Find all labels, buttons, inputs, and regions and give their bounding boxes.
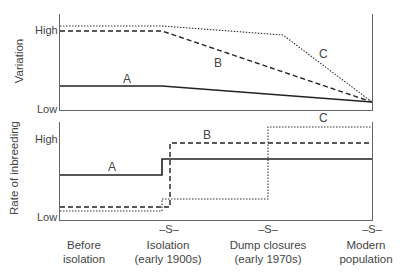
top-ylabel: Variation xyxy=(13,36,25,86)
top-ytick-high: High xyxy=(35,24,58,36)
bottom-ytick-high: High xyxy=(35,133,58,145)
bottom-series-c-label: C xyxy=(319,111,328,125)
top-series-a xyxy=(60,86,372,102)
xcat-isolation: Isolation (early 1900s) xyxy=(118,238,218,266)
bottom-ytick-low: Low xyxy=(37,211,57,223)
bottom-ylabel: Rate of inbreeding xyxy=(8,118,20,218)
top-series-c-label: C xyxy=(319,47,328,61)
xcat-dump-closures: Dump closures (early 1970s) xyxy=(218,238,318,266)
s-marker-modern: –S– xyxy=(357,223,387,235)
bottom-series-b-label: B xyxy=(203,128,211,142)
chart-canvas xyxy=(0,0,404,277)
bottom-panel-axes xyxy=(59,122,373,221)
top-series-a-label: A xyxy=(123,72,131,86)
bottom-series-a-label: A xyxy=(108,160,116,174)
bottom-series-c xyxy=(60,127,372,211)
bottom-series-a xyxy=(60,159,372,175)
s-marker-isolation: –S– xyxy=(154,223,184,235)
s-marker-dump-closures: –S– xyxy=(253,223,283,235)
top-ytick-low: Low xyxy=(37,103,57,115)
top-series-b-label: B xyxy=(214,56,222,70)
xcat-modern-population: Modern population xyxy=(316,238,404,266)
